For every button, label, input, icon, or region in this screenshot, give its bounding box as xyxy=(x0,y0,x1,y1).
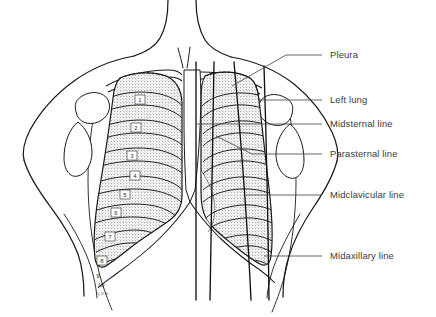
label-text-group: Pleura Left lung Midsternal line Paraste… xyxy=(330,49,404,261)
sternum xyxy=(184,70,201,202)
rib-number: 5 xyxy=(120,190,130,199)
label-parasternal-line: Parasternal line xyxy=(330,148,398,159)
rib-number: 1 xyxy=(135,95,145,104)
chest-anatomy-figure: 1 2 3 4 5 6 7 8 9 10 A.V.S. Pleura Left … xyxy=(0,0,436,317)
label-midaxillary-line: Midaxillary line xyxy=(330,250,394,261)
label-midsternal-line: Midsternal line xyxy=(330,118,393,129)
label-pleura: Pleura xyxy=(330,49,359,60)
rib-number-label: 10 xyxy=(98,282,105,288)
label-midclavicular-line: Midclavicular line xyxy=(330,189,404,200)
rib-number: 6 xyxy=(111,208,121,217)
rib-number: 7 xyxy=(105,232,115,241)
artist-signature: A.V.S. xyxy=(96,291,109,296)
rib-number: 2 xyxy=(131,123,141,132)
rib-number: 10 xyxy=(98,282,105,288)
label-left-lung: Left lung xyxy=(330,94,367,105)
rib-number: 4 xyxy=(130,171,140,180)
rib-number: 3 xyxy=(127,151,137,160)
rib-number: 8 xyxy=(97,256,107,265)
